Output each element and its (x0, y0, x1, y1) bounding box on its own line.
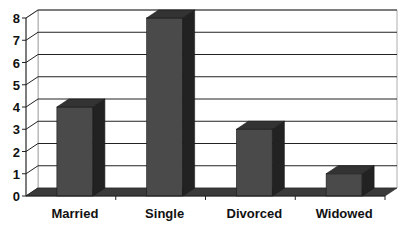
y-tick-label: 1 (13, 167, 20, 182)
x-category-label: Married (51, 206, 98, 221)
bar-divorced (236, 121, 284, 196)
y-tick-label: 6 (13, 56, 20, 71)
y-tick-label: 8 (13, 11, 20, 26)
y-tick-label: 3 (13, 122, 20, 137)
y-axis: 012345678 (13, 11, 26, 204)
x-category-label: Divorced (227, 206, 283, 221)
x-category-label: Widowed (316, 206, 373, 221)
bar-chart: 012345678 MarriedSingleDivorcedWidowed (0, 0, 407, 229)
x-axis: MarriedSingleDivorcedWidowed (26, 196, 385, 221)
y-tick-label: 0 (13, 189, 20, 204)
y-tick-label: 4 (13, 100, 21, 115)
bar-single (147, 10, 195, 196)
bar-widowed (326, 166, 374, 196)
y-tick-label: 2 (13, 145, 20, 160)
y-tick-label: 5 (13, 78, 20, 93)
y-tick-label: 7 (13, 33, 20, 48)
bar-married (57, 99, 105, 196)
x-category-label: Single (145, 206, 184, 221)
